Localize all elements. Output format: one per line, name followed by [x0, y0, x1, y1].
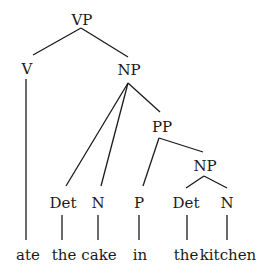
node-np: NP — [117, 61, 140, 79]
edge-pp-np — [159, 138, 203, 152]
node-p: P — [134, 194, 144, 212]
tree-nodes: VP V NP PP NP Det N P Det N — [21, 11, 234, 212]
tree-words: ate the cake in the kitchen — [16, 246, 257, 264]
node-np2: NP — [193, 157, 216, 175]
node-vp: VP — [71, 11, 93, 29]
edge-np-pp — [128, 83, 160, 112]
tree-canvas: VP V NP PP NP Det N P Det N ate the cake… — [0, 0, 269, 275]
edge-np-det — [66, 83, 128, 186]
edge-pp-p — [143, 138, 159, 186]
word-kitchen: kitchen — [200, 246, 257, 264]
node-n1: N — [91, 194, 104, 212]
edge-vp-v — [33, 28, 81, 55]
node-det1: Det — [50, 194, 77, 212]
node-pp: PP — [152, 118, 172, 136]
word-in: in — [133, 246, 148, 264]
node-n2: N — [220, 194, 233, 212]
word-ate: ate — [16, 246, 40, 264]
word-the-1: the — [52, 246, 77, 264]
edge-vp-np — [81, 28, 128, 57]
edge-np2-n — [204, 176, 227, 188]
node-v: V — [21, 60, 34, 78]
edge-np2-det — [186, 176, 204, 188]
syntax-tree-diagram: VP V NP PP NP Det N P Det N ate the cake… — [0, 0, 269, 275]
word-the-2: the — [174, 246, 199, 264]
edge-np-n — [101, 83, 128, 186]
node-det2: Det — [173, 194, 200, 212]
word-cake: cake — [81, 246, 116, 264]
